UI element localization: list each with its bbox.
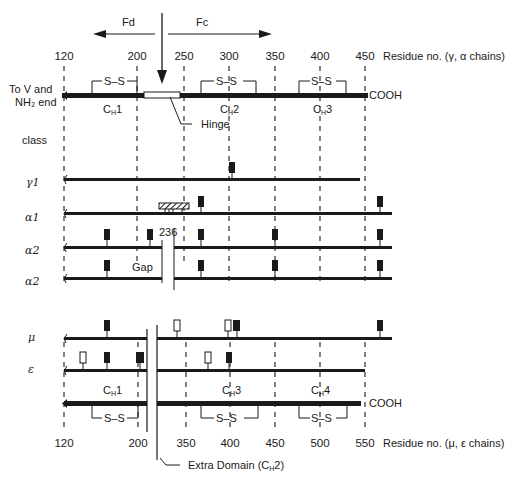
nterm-label-line2: NH₂ end — [15, 96, 57, 108]
glycan-filled — [377, 196, 383, 207]
bottom-tick-550: 550 — [355, 437, 374, 449]
domain-ch1-label: CH1 — [103, 103, 122, 116]
alpha1-label: α1 — [25, 211, 39, 224]
ss-label-bottom-ch4: S–S — [311, 412, 332, 424]
alpha1-chain: α1 — [25, 196, 392, 224]
gamma1-chain: γ1 — [26, 162, 360, 189]
domain-ch4-bottom-label: CH4 — [311, 384, 330, 397]
domain-ch1-bottom-label: CH1 — [103, 384, 122, 397]
glycan-open — [174, 320, 180, 331]
epsilon-bar-left — [64, 369, 147, 372]
glycan-filled — [104, 260, 110, 271]
epsilon-bar-right — [157, 369, 365, 372]
fc-arrowhead-icon — [259, 30, 272, 38]
fd-fc-arrows: Fd Fc — [93, 13, 272, 84]
mu-bar-left — [64, 337, 147, 340]
ss-bracket-ch2-right — [243, 81, 256, 93]
top-tick-200: 200 — [127, 50, 146, 62]
ss-bracket-bottom-ch1-right — [127, 406, 138, 418]
gamma1-bar — [64, 178, 360, 181]
ss-bracket-bottom-ch1-left — [92, 406, 102, 418]
glycan-open — [80, 352, 86, 363]
fd-label: Fd — [122, 16, 135, 28]
ss-label-ch3: S–S — [311, 75, 332, 87]
bottom-axis-label: Residue no. (μ, ε chains) — [383, 437, 504, 449]
mu-label: μ — [28, 331, 35, 344]
hinge-label: Hinge — [201, 118, 230, 130]
bottom-tick-120: 120 — [54, 437, 73, 449]
class-header: class — [22, 134, 48, 146]
extra-domain-leader-line — [160, 458, 180, 465]
domain-ch3-bottom-label: CH3 — [222, 384, 241, 397]
top-axis: 120 200 250 300 350 400 450 Residue no. … — [54, 50, 505, 62]
glycan-filled — [272, 260, 278, 271]
bottom-chain-bar-right — [157, 401, 361, 406]
alpha1-bar — [64, 212, 392, 215]
bottom-tick-350: 350 — [176, 437, 195, 449]
ss-bracket-bottom-ch3-left — [201, 406, 214, 418]
bottom-axis: 120 200 350 400 450 500 550 Residue no. … — [54, 437, 504, 449]
fd-arrowhead-icon — [93, 30, 106, 38]
ss-bracket-bottom-ch4-right — [336, 406, 347, 418]
ss-bracket-ch3-right — [336, 81, 346, 93]
domain-ch2-label: CH2 — [220, 103, 239, 116]
hinge-leader-line — [170, 97, 192, 124]
bottom-chain-bar-left — [64, 401, 147, 406]
glycan-filled — [377, 320, 383, 331]
mu-chain: μ — [28, 320, 392, 344]
alpha2b-label: α2 — [25, 275, 39, 288]
nterm-label-line1: To V and — [9, 83, 52, 95]
immunoglobulin-heavy-chain-diagram: Fd Fc 120 200 250 300 350 400 450 Residu… — [0, 0, 510, 484]
cterm-label-top: COOH — [369, 89, 402, 101]
ss-bracket-ch2-left — [201, 81, 214, 93]
epsilon-label: ε — [28, 363, 34, 376]
bottom-tick-200: 200 — [128, 437, 147, 449]
top-tick-300: 300 — [219, 50, 238, 62]
mu-bar-right — [157, 337, 392, 340]
ss-label-bottom-ch3: S–S — [216, 412, 237, 424]
glycan-filled — [377, 229, 383, 240]
alpha2b-chain: α2 Gap — [25, 253, 392, 290]
gamma1-label: γ1 — [26, 176, 40, 189]
ss-label-bottom-ch1: S–S — [104, 412, 125, 424]
o-glycan-hatched-region — [159, 203, 189, 209]
ss-bracket-bottom-ch4-left — [299, 406, 310, 418]
bottom-tick-400: 400 — [220, 437, 239, 449]
fc-label: Fc — [196, 16, 209, 28]
ss-label-ch2: S–S — [216, 75, 237, 87]
alpha2b-bar-right — [174, 277, 392, 280]
glycan-filled — [198, 196, 204, 207]
domain-ch3-label: CH3 — [313, 103, 332, 116]
top-axis-label: Residue no. (γ, α chains) — [383, 50, 505, 62]
top-tick-400: 400 — [310, 50, 329, 62]
glycan-filled — [229, 162, 235, 173]
glycan-filled — [136, 352, 144, 363]
alpha2a-label: α2 — [25, 244, 39, 257]
glycan-open — [225, 320, 231, 331]
alpha2a-chain: α2 236 — [25, 226, 392, 257]
bottom-tick-500: 500 — [310, 437, 329, 449]
ss-bracket-ch1-left — [92, 81, 102, 93]
ss-label-ch1: S–S — [104, 75, 125, 87]
glycan-filled — [226, 352, 232, 363]
top-heavy-chain: Hinge S–S S–S S–S CH1 CH2 CH3 To V and N… — [9, 75, 402, 130]
ss-bracket-ch1-right — [127, 81, 137, 93]
glycan-filled — [272, 229, 278, 240]
cterm-label-bottom: COOH — [369, 397, 402, 409]
top-dashed-gridlines — [64, 66, 365, 282]
glycan-filled — [104, 352, 110, 363]
glycan-filled — [104, 229, 110, 240]
glycan-open — [205, 352, 211, 363]
top-tick-250: 250 — [174, 50, 193, 62]
epsilon-chain: ε — [28, 352, 365, 376]
glycan-filled — [147, 229, 153, 240]
alpha2a-bar-left — [64, 246, 162, 249]
hinge-region — [144, 92, 180, 98]
residue-236-label: 236 — [159, 226, 177, 238]
top-tick-120: 120 — [54, 50, 73, 62]
extra-domain-label: Extra Domain (CH2) — [188, 459, 284, 472]
ss-bracket-ch3-left — [299, 81, 310, 93]
bottom-heavy-chain: CH1 CH3 CH4 COOH S–S S–S S–S — [62, 384, 402, 424]
gap-label: Gap — [132, 261, 153, 273]
glycan-filled — [198, 260, 204, 271]
